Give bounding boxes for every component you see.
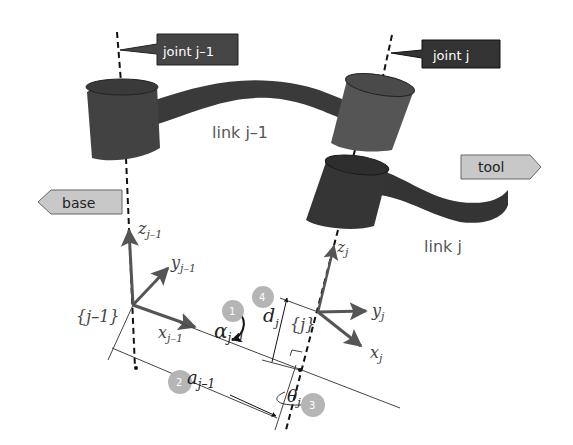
step-badge-4-label: 4 — [259, 292, 265, 303]
link-curr-cylinder — [306, 152, 390, 229]
step-badge-3-label: 3 — [309, 400, 315, 411]
frame-prev-axes — [129, 230, 195, 327]
axis-x-prev-label: xj–1 — [158, 323, 183, 345]
step-badge-1-label: 1 — [229, 306, 235, 317]
axis-z-curr-label: zj — [336, 238, 349, 259]
axis-y-curr-label: yj — [371, 301, 385, 323]
callout-tool-label: tool — [478, 159, 505, 175]
callout-joint-prev-label: joint j–1 — [162, 44, 214, 59]
a-dimension-arrow — [230, 395, 276, 416]
param-d-label: dj — [263, 304, 279, 330]
callout-joint-curr-label: joint j — [432, 48, 469, 63]
joint-prev-cylinder — [86, 79, 160, 160]
frame-curr-axes — [318, 246, 366, 346]
axis-z-prev-label: zj–1 — [137, 219, 162, 241]
dh-diagram: joint j–1 joint j base tool link j–1 lin… — [0, 0, 573, 445]
construction-lines — [108, 298, 400, 430]
joint-curr-cylinder — [331, 69, 416, 151]
frame-curr-label: {j} — [290, 315, 315, 334]
param-theta-label: θj — [287, 386, 301, 409]
link-prev-shape — [155, 80, 350, 124]
link-curr-label: link j — [424, 237, 462, 256]
param-a-label: aj–1 — [187, 367, 215, 391]
frame-prev-label: {j–1} — [76, 307, 120, 326]
axis-x-curr-label: xj — [370, 343, 383, 365]
link-prev-label: link j–1 — [212, 123, 268, 142]
axis-y-prev-label: yj–1 — [170, 253, 196, 275]
step-badge-2-label: 2 — [176, 377, 182, 388]
param-alpha-label: αj–1 — [214, 319, 245, 345]
link-curr-shape — [380, 172, 508, 223]
callout-base-label: base — [62, 195, 95, 211]
